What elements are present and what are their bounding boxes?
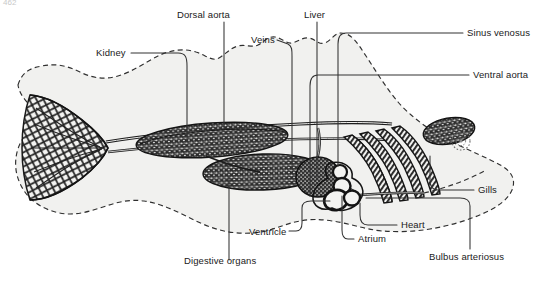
label-atrium: Atrium xyxy=(358,233,386,244)
label-gills: Gills xyxy=(478,184,497,195)
label-sinus-venosus: Sinus venosus xyxy=(467,27,530,38)
label-liver: Liver xyxy=(304,9,325,20)
figure-page: 462 xyxy=(0,0,544,283)
label-digestive-organs: Digestive organs xyxy=(184,255,256,266)
label-veins: Veins xyxy=(251,34,275,45)
label-ventricle: Ventricle xyxy=(249,226,286,237)
label-dorsal-aorta: Dorsal aorta xyxy=(177,9,230,20)
label-heart: Heart xyxy=(401,219,425,230)
label-ventral-aorta: Ventral aorta xyxy=(473,69,528,80)
label-kidney: Kidney xyxy=(96,47,126,58)
label-bulbus-arteriosus: Bulbus arteriosus xyxy=(429,251,504,262)
